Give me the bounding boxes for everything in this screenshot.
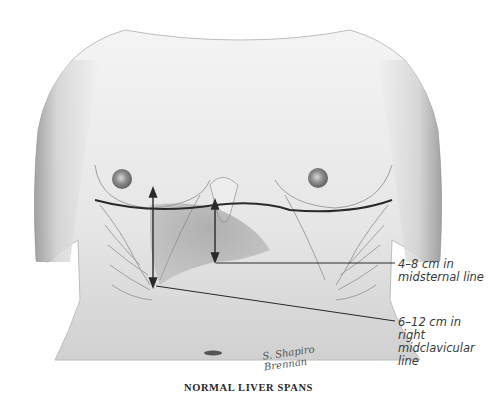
figure-caption: NORMAL LIVER SPANS bbox=[0, 382, 497, 393]
midclavicular-span-label: 6–12 cm in right midclavicular line bbox=[398, 316, 493, 368]
midsternal-span-label: 4–8 cm in midsternal line bbox=[398, 258, 493, 284]
navel bbox=[204, 351, 222, 356]
left-nipple bbox=[308, 168, 328, 188]
right-nipple bbox=[112, 169, 132, 189]
